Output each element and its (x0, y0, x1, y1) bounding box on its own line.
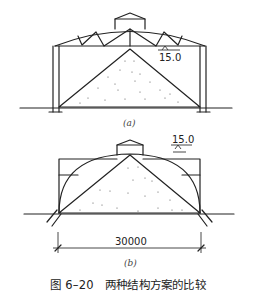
roof-monitor-a (115, 13, 145, 29)
panel-b: 15.0 30000 (b) (24, 134, 234, 268)
elevation-label-b: 15.0 (172, 134, 194, 145)
right-column-a (197, 46, 210, 112)
figure-caption: 图 6–20 两种结构方案的比较 (0, 276, 256, 292)
material-pile-b (59, 155, 200, 213)
structure-comparison-drawing: 15.0 (a) (0, 0, 256, 294)
panel-label-a: (a) (123, 118, 136, 128)
left-column-a (49, 46, 62, 112)
elevation-label-a: 15.0 (159, 52, 181, 63)
roof-truss-a (55, 29, 205, 46)
roof-monitor-b (117, 140, 143, 155)
panel-label-b: (b) (124, 258, 137, 268)
span-dimension-label: 30000 (115, 236, 147, 247)
arch-b (59, 154, 200, 213)
span-dimension-b: 30000 (53, 232, 206, 253)
elevation-marker-a: 15.0 (158, 46, 181, 63)
panel-a: 15.0 (a) (20, 13, 232, 128)
elevation-marker-b: 15.0 (171, 134, 194, 152)
